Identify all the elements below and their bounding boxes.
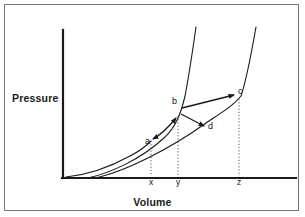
isotherm-curve-2 <box>88 27 196 178</box>
arrow-b-to-c <box>182 95 234 108</box>
tick-label-x: x <box>145 177 157 187</box>
point-label-b: b <box>172 96 177 106</box>
x-axis-title: Volume <box>0 196 305 208</box>
point-label-a: a <box>145 136 150 146</box>
pv-diagram-screenshot: Pressure Volume a b c d x y z <box>0 0 305 217</box>
arrow-b-to-d <box>181 114 204 126</box>
process-arrows <box>153 95 234 139</box>
axes-group <box>62 30 296 178</box>
point-label-c: c <box>238 86 243 96</box>
y-axis-title: Pressure <box>12 92 59 104</box>
isotherm-curves <box>66 27 256 178</box>
tick-label-y: y <box>172 177 184 187</box>
point-label-d: d <box>208 121 213 131</box>
tick-label-z: z <box>233 177 245 187</box>
